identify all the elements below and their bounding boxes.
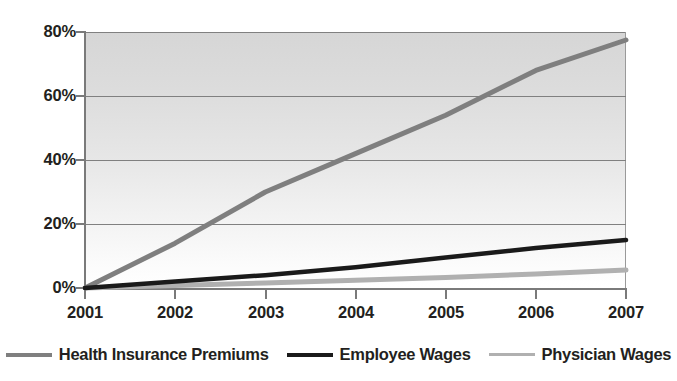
y-axis-label-80: 80% [4,22,76,41]
chart-legend: Health Insurance Premiums Employee Wages… [0,345,677,364]
gridline-20 [85,224,626,225]
y-tick-40 [76,159,85,161]
legend-item-employee-wages: Employee Wages [287,345,471,364]
legend-label-physician-wages: Physician Wages [542,345,672,364]
gridline-60 [85,96,626,97]
x-axis-label-2003: 2003 [226,303,306,322]
legend-swatch-physician-wages [489,353,535,356]
gridline-40 [85,160,626,161]
y-tick-0 [76,287,85,289]
y-tick-20 [76,223,85,225]
x-axis-label-2005: 2005 [406,303,486,322]
y-axis-label-20: 20% [4,214,76,233]
x-tick-2006 [535,290,537,299]
legend-label-employee-wages: Employee Wages [340,345,471,364]
x-axis-label-2001: 2001 [45,303,125,322]
x-tick-2007 [625,290,627,299]
x-axis-label-2006: 2006 [496,303,576,322]
y-axis-label-0: 0% [4,278,76,297]
legend-label-health-insurance-premiums: Health Insurance Premiums [59,345,269,364]
legend-item-health-insurance-premiums: Health Insurance Premiums [6,345,269,364]
plot-top-border [85,32,626,33]
x-tick-2002 [174,290,176,299]
x-axis-label-2002: 2002 [135,303,215,322]
plot-area [85,32,626,288]
y-tick-60 [76,95,85,97]
x-tick-2005 [445,290,447,299]
x-tick-2001 [84,290,86,299]
legend-swatch-employee-wages [287,353,333,357]
legend-swatch-health-insurance-premiums [6,353,52,357]
y-axis-label-40: 40% [4,150,76,169]
x-axis-label-2007: 2007 [586,303,666,322]
x-tick-2004 [355,290,357,299]
y-axis-labels: 80% 60% 40% 20% 0% [0,0,76,381]
y-tick-80 [76,31,85,33]
y-axis-label-60: 60% [4,86,76,105]
line-chart: 80% 60% 40% 20% 0% 2001 2002 2003 2004 2… [0,0,677,381]
legend-item-physician-wages: Physician Wages [489,345,672,364]
x-axis-label-2004: 2004 [316,303,396,322]
x-tick-2003 [265,290,267,299]
